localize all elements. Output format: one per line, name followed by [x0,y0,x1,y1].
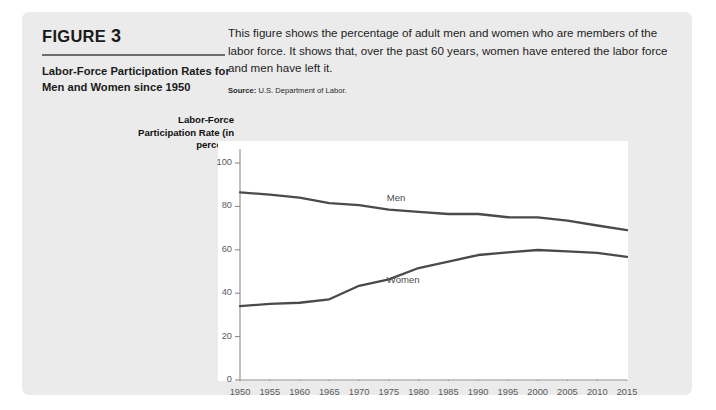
figure-title-block: FIGURE 3 Labor-Force Participation Rates… [42,26,238,96]
figure-label-prefix: FIGURE [42,27,106,45]
y-axis-title: Labor-Force Participation Rate (in perce… [120,114,234,152]
y-axis-tick-label: 0 [206,374,232,384]
figure-source: Source: U.S. Department of Labor. [228,86,676,95]
figure-label-number: 3 [111,26,121,46]
title-divider [42,54,225,56]
chart-svg [218,141,628,381]
figure-card: FIGURE 3 Labor-Force Participation Rates… [22,12,692,395]
y-axis-tick-label: 80 [206,200,232,210]
x-axis-tick-label: 2015 [610,387,644,397]
y-axis-tick-label: 100 [206,157,232,167]
source-label: Source: [228,86,256,95]
chart-plot-area [218,141,628,381]
series-label-women: Women [387,274,420,285]
figure-subtitle: Labor-Force Participation Rates for Men … [42,64,238,96]
figure-description: This figure shows the percentage of adul… [228,24,676,77]
y-axis-tick-label: 20 [206,331,232,341]
figure-description-block: This figure shows the percentage of adul… [228,24,676,95]
source-text: U.S. Department of Labor. [258,86,346,95]
figure-label: FIGURE 3 [42,26,238,54]
y-axis-tick-label: 40 [206,287,232,297]
y-axis-tick-label: 60 [206,244,232,254]
series-label-men: Men [387,192,406,203]
